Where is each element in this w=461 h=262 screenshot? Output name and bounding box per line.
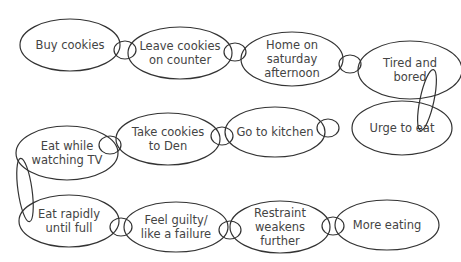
event-label: further [260,234,300,248]
event-label: on counter [149,53,212,67]
event-label: Restraint [254,206,306,220]
event-node: Eat rapidlyuntil full [19,195,119,247]
event-nodes: Buy cookiesLeave cookieson counterHome o… [16,19,461,253]
event-node: Restraintweakensfurther [230,201,330,253]
event-label: Feel guilty/ [144,213,207,227]
event-node: Tired andbored [358,41,461,99]
event-node: Go to kitchen [225,107,325,157]
event-label: Tired and [382,56,437,70]
event-label: Buy cookies [36,38,105,52]
event-label: like a failure [141,227,211,241]
event-label: Eat rapidly [38,207,100,221]
event-node: Home onsaturdayafternoon [241,32,343,86]
event-label: to Den [149,139,187,153]
chain-diagram: Buy cookiesLeave cookieson counterHome o… [0,0,461,262]
event-node: More eating [335,200,439,250]
event-label: Eat while [41,139,94,153]
event-label: Home on [266,38,318,52]
event-node: Buy cookies [20,19,120,71]
event-label: Urge to eat [370,121,435,135]
event-label: Leave cookies [139,39,220,53]
event-label: More eating [353,218,422,232]
event-label: saturday [267,52,318,66]
event-label: afternoon [264,66,320,80]
event-node: Leave cookieson counter [128,27,232,79]
event-node: Urge to eat [352,101,452,155]
event-label: Go to kitchen [236,125,313,139]
event-node: Eat whilewatching TV [16,126,118,180]
event-label: until full [46,221,93,235]
event-label: Take cookies [131,125,204,139]
event-node: Feel guilty/like a failure [124,202,228,252]
event-label: watching TV [32,153,103,167]
event-label: weakens [255,220,305,234]
event-label: bored [393,70,426,84]
event-node: Take cookiesto Den [116,113,220,165]
